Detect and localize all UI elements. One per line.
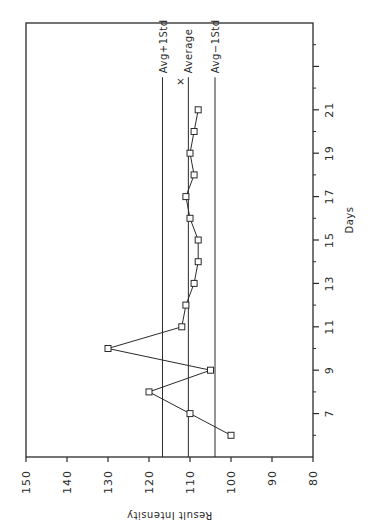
x-axis: 79111315171921: [313, 45, 336, 436]
reference-lines: Avg+1StdAverage×Avg−1Std: [158, 19, 221, 457]
x-tick-label: 15: [323, 232, 336, 248]
square-marker-icon: [228, 432, 234, 438]
x-tick-label: 17: [323, 189, 336, 205]
square-marker-icon: [191, 129, 197, 135]
reference-label: Avg+1Std: [158, 19, 169, 73]
chart-container: 1501401301201101009080 79111315171921 Av…: [0, 0, 373, 532]
x-tick-label: 9: [323, 366, 336, 374]
plot-frame: [26, 23, 313, 457]
square-marker-icon: [179, 324, 185, 330]
square-marker-icon: [195, 259, 201, 265]
y-tick-label: 90: [266, 470, 279, 486]
square-marker-icon: [187, 411, 193, 417]
y-tick-label: 80: [307, 470, 320, 486]
square-marker-icon: [105, 346, 111, 352]
square-marker-icon: [208, 367, 214, 373]
average-marker-icon: ×: [175, 77, 186, 86]
square-marker-icon: [146, 389, 152, 395]
y-tick-label: 110: [184, 470, 197, 494]
square-marker-icon: [183, 302, 189, 308]
square-marker-icon: [191, 280, 197, 286]
series-line: [108, 110, 231, 436]
y-tick-label: 130: [102, 470, 115, 494]
square-marker-icon: [187, 150, 193, 156]
x-tick-label: 21: [323, 102, 336, 118]
x-axis-title: Days: [344, 207, 355, 234]
square-marker-icon: [187, 215, 193, 221]
y-axis: 1501401301201101009080: [20, 457, 320, 494]
y-tick-label: 100: [225, 470, 238, 494]
reference-label: Avg−1Std: [210, 19, 221, 73]
y-tick-label: 140: [61, 470, 74, 494]
plot-border: [26, 23, 313, 457]
reference-label: Average: [183, 29, 194, 74]
square-marker-icon: [183, 194, 189, 200]
x-tick-label: 7: [323, 410, 336, 418]
square-marker-icon: [191, 172, 197, 178]
x-tick-label: 19: [323, 145, 336, 161]
y-axis-title: Result Intensity: [127, 510, 213, 521]
line-chart: 1501401301201101009080 79111315171921 Av…: [0, 0, 373, 532]
square-marker-icon: [195, 237, 201, 243]
square-marker-icon: [195, 107, 201, 113]
x-tick-label: 11: [323, 319, 336, 335]
x-tick-label: 13: [323, 275, 336, 291]
y-tick-label: 120: [143, 470, 156, 494]
y-tick-label: 150: [20, 470, 33, 494]
